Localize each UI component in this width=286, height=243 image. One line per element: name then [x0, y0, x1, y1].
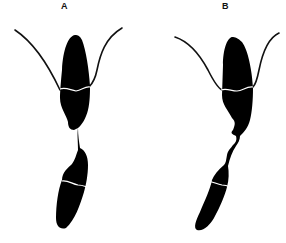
panel-a-organism [15, 28, 122, 229]
panel-a-upper-cell [56, 35, 90, 229]
panel-a-right-flagellum [89, 28, 122, 87]
panel-b-organism [175, 33, 279, 230]
cell-division-figure [0, 0, 286, 243]
panel-b-right-flagellum [253, 33, 279, 87]
panel-b-left-flagellum [175, 37, 222, 90]
panel-b-upper-cell [195, 37, 253, 230]
panel-a-left-flagellum [15, 30, 60, 90]
